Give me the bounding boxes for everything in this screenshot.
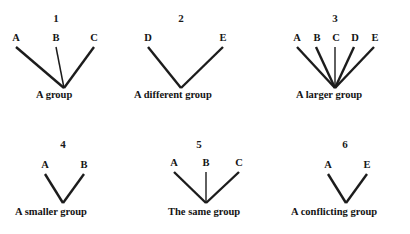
panel-number-1: 1 bbox=[46, 12, 66, 24]
leaf-label-4-a: A bbox=[38, 160, 52, 171]
leaf-label-5-b: B bbox=[199, 158, 213, 169]
panel-caption-5: The same group bbox=[168, 207, 240, 218]
leaf-label-1-b: B bbox=[49, 33, 63, 44]
leaf-label-3-a: A bbox=[290, 33, 304, 44]
leaf-label-3-b: B bbox=[310, 33, 324, 44]
leaf-label-4-b: B bbox=[77, 160, 91, 171]
panel-number-5: 5 bbox=[189, 138, 209, 150]
leaf-label-6-e: E bbox=[360, 160, 374, 171]
panel-caption-6: A conflicting group bbox=[291, 207, 377, 218]
figure-canvas: 1 A B C A group 2 D E A different group … bbox=[0, 0, 410, 234]
panel-number-2: 2 bbox=[171, 12, 191, 24]
panel-number-3: 3 bbox=[325, 12, 345, 24]
leaf-label-3-e: E bbox=[368, 33, 382, 44]
leaf-label-6-a: A bbox=[321, 160, 335, 171]
leaf-label-3-c: C bbox=[329, 33, 343, 44]
leaf-label-5-a: A bbox=[167, 158, 181, 169]
panel-number-4: 4 bbox=[53, 138, 73, 150]
panel-caption-4: A smaller group bbox=[15, 207, 87, 218]
leaf-label-2-e: E bbox=[216, 33, 230, 44]
leaf-label-3-d: D bbox=[348, 33, 362, 44]
panel-caption-3: A larger group bbox=[296, 90, 362, 101]
panel-number-6: 6 bbox=[335, 138, 355, 150]
panel-caption-2: A different group bbox=[134, 90, 212, 101]
leaf-label-1-a: A bbox=[9, 33, 23, 44]
panel-caption-1: A group bbox=[36, 90, 72, 101]
leaf-label-2-d: D bbox=[141, 33, 155, 44]
leaf-label-1-c: C bbox=[87, 33, 101, 44]
leaf-label-5-c: C bbox=[232, 158, 246, 169]
